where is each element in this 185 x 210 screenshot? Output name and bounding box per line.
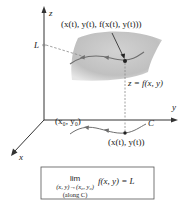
point-on-surface — [123, 59, 127, 63]
limit-along-curve-diagram: z y x L (x(t), y(t), f(x(t), y(t))) z = … — [0, 0, 185, 210]
y-axis-arrow-icon — [171, 118, 178, 123]
y-axis-label: y — [171, 102, 176, 112]
x-axis-label: x — [18, 152, 23, 162]
lim-subscript: (x, y)→(x₀, y₀) — [56, 183, 94, 191]
lim-expression: f(x, y) = L — [98, 176, 135, 186]
limit-label-L: L — [33, 40, 39, 50]
lim-operator: lim — [70, 174, 81, 183]
point-3d-label: (x(t), y(t), f(x(t), y(t))) — [61, 19, 141, 29]
point-on-plane — [123, 131, 126, 134]
point-2d-label: (x(t), y(t)) — [108, 137, 144, 147]
plane-curve-arrow-icon-2 — [104, 129, 109, 134]
surface-label: z = f(x, y) — [127, 78, 163, 88]
curve-label-C: C — [148, 118, 155, 128]
start-point-label: (x₀, y₀) — [55, 116, 81, 126]
limit-point-L — [42, 43, 45, 46]
lim-along-C: (along C) — [63, 191, 88, 199]
z-axis-arrow-icon — [42, 6, 47, 13]
x-axis — [14, 120, 44, 152]
z-axis-label: z — [48, 8, 53, 18]
